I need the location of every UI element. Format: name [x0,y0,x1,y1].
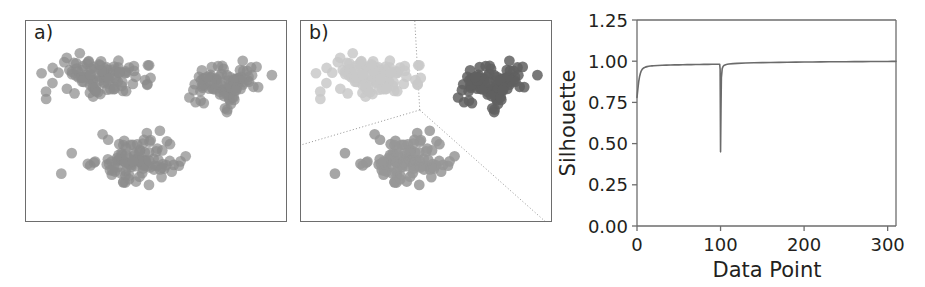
x-tick-label: 200 [787,234,821,255]
panel-c: c) 0.000.250.500.751.001.25 0100200300 S… [555,0,925,287]
y-tick-label: 0.50 [588,133,628,154]
scatter-point [414,60,425,71]
scatter-point [414,155,425,166]
scatter-point [453,92,464,103]
scatter-point [56,168,67,179]
scatter-point [251,62,262,73]
figure-root: a) b) c) 0.000.250.500.751.001.25 010020… [0,0,925,287]
scatter-point [414,180,425,191]
scatter-point [175,156,186,167]
scatter-point [198,98,209,109]
scatter-point [74,48,85,59]
scatter-point [424,125,435,136]
scatter-point [489,104,500,115]
scatter-point [444,156,455,167]
scatter-point [427,145,438,156]
y-axis-label: Silhouette [556,70,580,177]
panel-b-label: b) [309,23,329,42]
panel-b-svg [301,21,551,221]
scatter-point [321,78,332,89]
scatter-point [231,85,242,96]
scatter-point [344,58,355,69]
x-axis-label: Data Point [713,258,822,282]
panel-b-points [311,48,543,190]
y-tick-label: 0.00 [588,216,628,237]
scatter-point [94,59,105,70]
plot-frame [637,20,896,226]
scatter-point [144,155,155,166]
scatter-point [248,81,259,92]
scatter-point [61,52,72,63]
scatter-point [369,129,380,140]
scatter-point [109,83,120,94]
scatter-point [85,69,96,80]
scatter-point [412,79,423,90]
x-tick-label: 100 [703,234,737,255]
scatter-point [426,172,437,183]
scatter-point [124,174,135,185]
panel-b: b) [300,20,552,222]
scatter-point [71,58,82,69]
x-axis-ticks: 0100200300 [631,226,905,255]
scatter-point [340,148,351,159]
scatter-point [153,154,164,165]
scatter-point [69,88,80,99]
scatter-point [130,71,141,82]
y-axis-ticks: 0.000.250.500.751.001.25 [588,10,637,237]
scatter-point [142,79,153,90]
scatter-point [156,172,167,183]
silhouette-chart-svg: 0.000.250.500.751.001.25 0100200300 Silh… [555,0,925,287]
scatter-point [390,135,401,146]
scatter-point [366,59,377,70]
scatter-point [311,68,322,79]
scatter-point [327,67,338,78]
scatter-point [138,138,149,149]
scatter-point [408,138,419,149]
scatter-point [66,148,77,159]
scatter-point [501,65,512,76]
scatter-point [47,78,58,89]
panel-a: a) [25,20,287,222]
scatter-point [237,55,248,66]
scatter-point [498,85,509,96]
scatter-point [347,48,358,59]
scatter-point [93,87,104,98]
panel-a-scatter [26,21,286,221]
y-tick-label: 1.00 [588,51,628,72]
panel-b-scatter [301,21,551,221]
scatter-point [381,83,392,94]
scatter-point [484,77,495,88]
scatter-point [89,157,100,168]
scatter-point [144,60,155,71]
scatter-point [119,135,130,146]
y-tick-label: 0.25 [588,174,628,195]
scatter-point [155,125,166,136]
scatter-point [357,69,368,80]
scatter-point [504,55,515,66]
scatter-point [484,61,495,72]
scatter-point [41,86,52,97]
scatter-point [532,70,543,81]
scatter-point [361,157,372,168]
scatter-point [222,104,233,115]
scatter-point [36,68,47,79]
y-tick-label: 1.25 [588,10,628,31]
scatter-point [401,71,412,82]
scatter-point [379,165,390,176]
scatter-point [53,67,64,78]
scatter-point [114,67,125,78]
scatter-point [431,136,442,147]
scatter-point [83,56,94,67]
scatter-point [467,98,478,109]
panel-a-points [36,48,277,190]
scatter-point [144,180,155,191]
scatter-point [107,165,118,176]
scatter-point [330,168,341,179]
scatter-point [342,88,353,99]
scatter-point [103,74,114,85]
scatter-point [267,70,278,81]
scatter-point [128,155,139,166]
scatter-point [97,129,108,140]
scatter-point [217,61,228,72]
voronoi-boundaries [301,21,551,221]
